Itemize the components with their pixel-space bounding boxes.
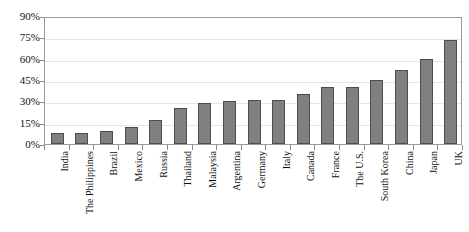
x-axis-category-label-text: Germany (257, 151, 267, 188)
x-axis-tick-mark (167, 145, 168, 150)
bars-layer (45, 18, 461, 144)
x-axis-category-label-text: Italy (282, 151, 292, 169)
bar (198, 103, 211, 144)
x-axis-tick-mark (192, 145, 193, 150)
x-axis-tick-mark (290, 145, 291, 150)
bar (100, 131, 113, 144)
x-axis-category-label-text: South Korea (380, 151, 390, 201)
x-axis-category-label: China (405, 151, 415, 175)
x-axis-category-label-text: France (331, 151, 341, 178)
bar (395, 70, 408, 144)
x-axis-category-label: France (331, 151, 341, 178)
x-axis-tick-mark (142, 145, 143, 150)
x-axis-category-label: South Korea (380, 151, 390, 201)
x-axis-category-label: The Philippines (85, 151, 95, 214)
x-axis-tick-mark (93, 145, 94, 150)
x-axis-category-label: UK (454, 151, 464, 165)
x-axis-tick-mark (364, 145, 365, 150)
x-axis-category-label-text: India (60, 151, 70, 172)
x-axis-category-label-text: The U.S. (355, 151, 365, 187)
bar (444, 40, 457, 144)
x-axis-tick-mark (413, 145, 414, 150)
x-axis-category-label-text: Malaysia (208, 151, 218, 188)
bar (174, 108, 187, 144)
x-axis-category-label: Brazil (109, 151, 119, 175)
bar (223, 101, 236, 144)
bar (297, 94, 310, 144)
x-axis-category-label-text: Russia (159, 151, 169, 178)
x-axis-category-label: Canada (306, 151, 316, 181)
plot-area (44, 17, 462, 145)
bar (420, 59, 433, 144)
x-axis-labels: IndiaThe PhilippinesBrazilMexicoRussiaTh… (44, 151, 462, 232)
x-axis-tick-mark (118, 145, 119, 150)
bar (272, 100, 285, 144)
bar (51, 133, 64, 144)
x-axis-category-label-text: Thailand (183, 151, 193, 187)
bar (149, 120, 162, 144)
x-axis-category-label: Malaysia (208, 151, 218, 188)
x-axis-tick-mark (462, 145, 463, 150)
x-axis-tick-mark (314, 145, 315, 150)
x-axis-category-label-text: Mexico (134, 151, 144, 182)
x-axis-category-label: The U.S. (355, 151, 365, 187)
x-axis-tick-mark (216, 145, 217, 150)
x-axis-tick-mark (265, 145, 266, 150)
x-axis-category-label: Argentina (232, 151, 242, 191)
x-axis-tick-mark (69, 145, 70, 150)
x-axis-category-label: Italy (282, 151, 292, 169)
y-axis-ticks (0, 0, 44, 232)
bar (248, 100, 261, 144)
x-axis-category-label-text: Canada (306, 151, 316, 181)
bar (346, 87, 359, 144)
x-axis-category-label-text: The Philippines (85, 151, 95, 214)
x-axis-tick-mark (44, 145, 45, 150)
x-axis-tick-mark (339, 145, 340, 150)
x-axis-tick-mark (241, 145, 242, 150)
x-axis-category-label: Germany (257, 151, 267, 188)
x-axis-category-label: Mexico (134, 151, 144, 182)
x-axis-category-label: India (60, 151, 70, 172)
bar (125, 127, 138, 144)
x-axis-category-label-text: Japan (429, 151, 439, 174)
bar (321, 87, 334, 144)
x-axis-category-label: Thailand (183, 151, 193, 187)
x-axis-tick-mark (388, 145, 389, 150)
x-axis-category-label: Japan (429, 151, 439, 174)
bar-chart: 0%15%30%45%60%75%90% IndiaThe Philippine… (0, 0, 469, 232)
x-axis-category-label-text: Argentina (232, 151, 242, 191)
x-axis-category-label-text: UK (454, 151, 464, 165)
bar (370, 80, 383, 144)
x-axis-category-label-text: China (405, 151, 415, 175)
x-axis-tick-mark (437, 145, 438, 150)
bar (75, 133, 88, 144)
x-axis-category-label-text: Brazil (109, 151, 119, 175)
x-axis-category-label: Russia (159, 151, 169, 178)
